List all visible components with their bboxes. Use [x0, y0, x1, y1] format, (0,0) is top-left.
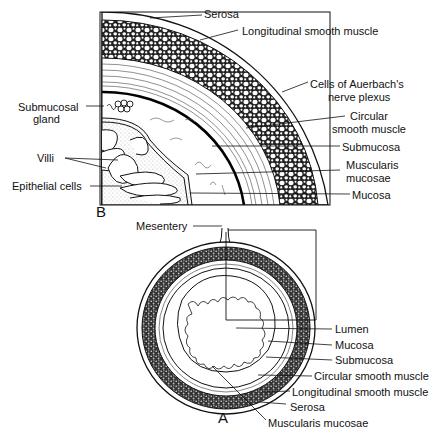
label-muscularis-line2: mucosae [346, 172, 391, 184]
label-auerbach-line2: nerve plexus [328, 91, 390, 103]
panel-a-letter: A [218, 410, 228, 426]
label-muscularis-mucosae-a: Muscularis mucosae [268, 417, 368, 429]
label-submucosa-a: Submucosa [335, 354, 393, 366]
label-submucosal-line2: gland [33, 113, 60, 125]
label-submucosa-b: Submucosa [342, 141, 400, 153]
label-circular-muscle-a: Circular smooth muscle [314, 370, 429, 382]
panel-b-quadrant [102, 12, 328, 205]
label-submucosal-line1: Submucosal [18, 101, 79, 113]
label-auerbach-line1: Cells of Auerbach's [310, 78, 404, 90]
label-longitudinal-muscle-b: Longitudinal smooth muscle [242, 25, 378, 37]
label-muscularis-line1: Muscularis [346, 159, 399, 171]
label-circular-line2: smooth muscle [332, 123, 406, 135]
label-epithelial-cells: Epithelial cells [12, 180, 82, 192]
panel-a-cross-section [137, 228, 316, 414]
label-serosa-b: Serosa [204, 8, 239, 20]
label-longitudinal-muscle-a: Longitudinal smooth muscle [292, 386, 428, 398]
label-mucosa-a: Mucosa [335, 339, 374, 351]
label-mucosa-b: Mucosa [352, 189, 391, 201]
panel-b-letter: B [96, 204, 106, 220]
label-mesentery: Mesentery [136, 220, 187, 232]
label-circular-line1: Circular [350, 110, 388, 122]
label-lumen: Lumen [335, 323, 369, 335]
label-villi: Villi [37, 152, 54, 164]
label-serosa-a: Serosa [290, 401, 325, 413]
